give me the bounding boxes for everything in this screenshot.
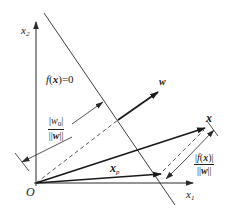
w0-dimension-arrow-upper [72,102,103,124]
w-vector [118,92,158,120]
x2-axis-label: x2 [21,25,29,38]
x-vector-label: x [206,112,212,124]
origin-label: O [26,186,35,198]
fx-dimension-arrow-lower [166,159,186,179]
x1-axis-label: x1 [186,189,194,202]
w0-dimension-arrow-lower [22,137,72,162]
x1-axis-sub: 1 [191,194,195,202]
w0-fraction-numerator: |w0| [48,116,64,130]
x2-axis-sub: 2 [26,30,30,38]
w0-distance-fraction: |w0| ||w|| [48,116,64,141]
xp-vector-label: xp [110,162,120,176]
fx-fraction-numerator: |f(x)| [194,153,214,165]
hyperplane-label: f(x)=0 [46,74,74,85]
fx-fraction-denominator: ||w|| [194,165,214,176]
xp-vector [36,174,161,183]
hyperplane-line [44,13,175,205]
diagram-canvas [0,0,241,209]
hyperplane-close: )=0 [58,73,73,85]
w-vector-label: w [159,77,166,87]
w0-fraction-denominator: ||w|| [48,130,64,141]
fx-distance-fraction: |f(x)| ||w|| [194,153,214,176]
xp-sub: p [116,168,120,176]
